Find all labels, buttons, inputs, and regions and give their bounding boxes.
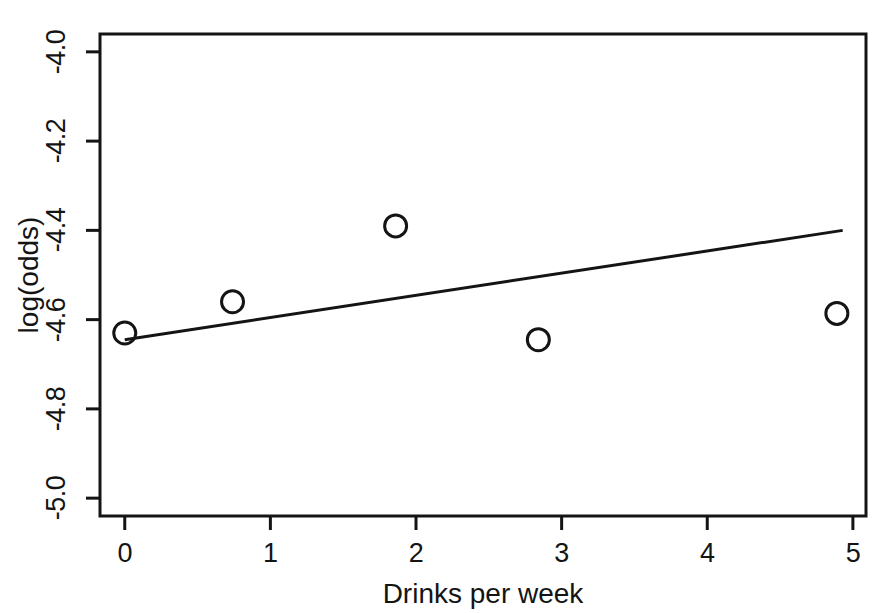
y-axis-ticks — [86, 52, 100, 498]
plot-canvas — [0, 0, 890, 613]
y-axis-title: log(odds) — [12, 175, 46, 375]
regression-line — [125, 230, 843, 339]
data-point-markers — [114, 215, 848, 351]
x-axis-tick-label: 4 — [687, 538, 727, 569]
data-point-marker — [527, 329, 549, 351]
chart-figure: -4.0-4.2-4.4-4.6-4.8-5.0 012345 log(odds… — [0, 0, 890, 613]
x-axis-title: Drinks per week — [283, 578, 683, 610]
x-axis-tick-label: 2 — [396, 538, 436, 569]
plot-border — [100, 34, 866, 516]
x-axis-tick-label: 1 — [250, 538, 290, 569]
y-axis-tick-label: -4.0 — [40, 10, 72, 94]
data-point-marker — [114, 322, 136, 344]
x-axis-tick-label: 5 — [833, 538, 873, 569]
y-axis-tick-label: -4.8 — [40, 367, 72, 451]
fitted-regression-line — [125, 230, 843, 339]
x-axis-tick-label: 3 — [542, 538, 582, 569]
y-axis-tick-label: -4.2 — [40, 99, 72, 183]
data-point-marker — [385, 215, 407, 237]
y-axis-tick-label: -5.0 — [40, 456, 72, 540]
x-axis-ticks — [125, 516, 853, 530]
x-axis-tick-label: 0 — [105, 538, 145, 569]
data-point-marker — [826, 302, 848, 324]
plot-frame — [100, 34, 866, 516]
data-point-marker — [222, 291, 244, 313]
